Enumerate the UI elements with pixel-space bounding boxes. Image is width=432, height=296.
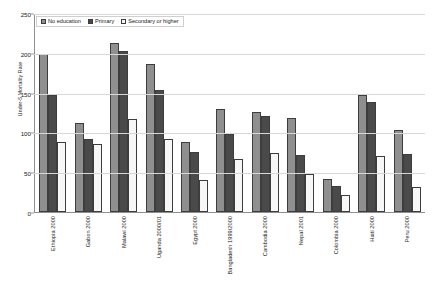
y-tick-label: 100 (21, 130, 31, 137)
x-tick-label: Colombia 2000 (333, 216, 339, 254)
bar-group (390, 14, 425, 212)
gridline (34, 94, 425, 95)
chart-legend: No educationPrimarySecondary or higher (36, 16, 184, 27)
bar-group (177, 14, 212, 212)
legend-label: Primary (95, 19, 114, 25)
bar (323, 179, 332, 212)
bar-group (70, 14, 105, 212)
bar (216, 109, 225, 212)
x-label-cell: Nepal 2001 (283, 216, 318, 294)
legend-item[interactable]: No education (41, 19, 81, 25)
bar (287, 118, 296, 212)
bar-group (354, 14, 389, 212)
legend-swatch-icon (121, 19, 126, 24)
x-label-cell: Gabon 2000 (70, 216, 105, 294)
x-label-cell: Bangladesh 1999/2000 (212, 216, 247, 294)
bar (164, 139, 173, 212)
plot-area (34, 14, 425, 213)
bar (75, 123, 84, 212)
bar (296, 155, 305, 212)
x-tick-label: Bangladesh 1999/2000 (227, 216, 233, 275)
bar-group (141, 14, 176, 212)
bar (332, 186, 341, 212)
bar (190, 152, 199, 212)
y-tick-label: 150 (21, 90, 31, 97)
y-tick-label: 50 (24, 170, 31, 177)
bar (146, 64, 155, 212)
bar (110, 43, 119, 212)
x-tick-label: Ethiopia 2000 (50, 216, 56, 251)
x-label-cell: Ethiopia 2000 (35, 216, 70, 294)
bar (48, 95, 57, 212)
legend-item[interactable]: Primary (88, 19, 114, 25)
bar-group (106, 14, 141, 212)
x-label-cell: Colombia 2000 (319, 216, 354, 294)
bar (234, 159, 243, 212)
bar-group (283, 14, 318, 212)
bar (341, 195, 350, 213)
legend-swatch-icon (41, 19, 46, 24)
x-tick-label: Malawi 2000 (121, 216, 127, 248)
x-label-cell: Cambodia 2000 (248, 216, 283, 294)
y-tick-label: 250 (21, 11, 31, 18)
bar (367, 102, 376, 212)
x-tick-label: Peru 2000 (404, 216, 410, 242)
bar (199, 180, 208, 212)
y-axis-ticks: 050100150200250 (0, 0, 34, 296)
bar (376, 156, 385, 212)
bar-group (212, 14, 247, 212)
bar (261, 116, 270, 212)
gridline (34, 133, 425, 134)
x-tick-label: Uganda 2000/01 (156, 216, 162, 258)
x-tick-label: Cambodia 2000 (262, 216, 268, 256)
bar (305, 174, 314, 212)
gridline (34, 14, 425, 15)
bar (412, 187, 421, 212)
x-axis-labels: Ethiopia 2000Gabon 2000Malawi 2000Uganda… (35, 216, 425, 294)
legend-label: Secondary or higher (128, 19, 178, 25)
x-label-cell: Peru 2000 (390, 216, 425, 294)
bar-group (248, 14, 283, 212)
x-tick-label: Nepal 2001 (298, 216, 304, 245)
bar (358, 95, 367, 212)
bar (270, 153, 279, 212)
gridline (34, 54, 425, 55)
bar (155, 90, 164, 212)
legend-swatch-icon (88, 19, 93, 24)
bar (119, 51, 128, 212)
x-tick-label: Gabon 2000 (85, 216, 91, 247)
bar (57, 142, 66, 212)
bar-group (35, 14, 70, 212)
x-label-cell: Uganda 2000/01 (141, 216, 176, 294)
gridline (34, 173, 425, 174)
legend-item[interactable]: Secondary or higher (121, 19, 178, 25)
bar (181, 142, 190, 212)
x-axis-line (34, 212, 425, 213)
bar (403, 154, 412, 212)
y-tick-label: 200 (21, 50, 31, 57)
bar (84, 139, 93, 212)
x-tick-label: Haiti 2000 (369, 216, 375, 242)
bar (252, 112, 261, 212)
x-tick-label: Egypt 2000 (192, 216, 198, 245)
bar-chart: Under-5 Mortality Rate 050100150200250 N… (0, 0, 432, 296)
x-label-cell: Haiti 2000 (354, 216, 389, 294)
bar (394, 130, 403, 212)
x-label-cell: Malawi 2000 (106, 216, 141, 294)
legend-label: No education (48, 19, 81, 25)
bar-groups (35, 14, 425, 212)
bar-group (319, 14, 354, 212)
bar (93, 144, 102, 212)
x-label-cell: Egypt 2000 (177, 216, 212, 294)
